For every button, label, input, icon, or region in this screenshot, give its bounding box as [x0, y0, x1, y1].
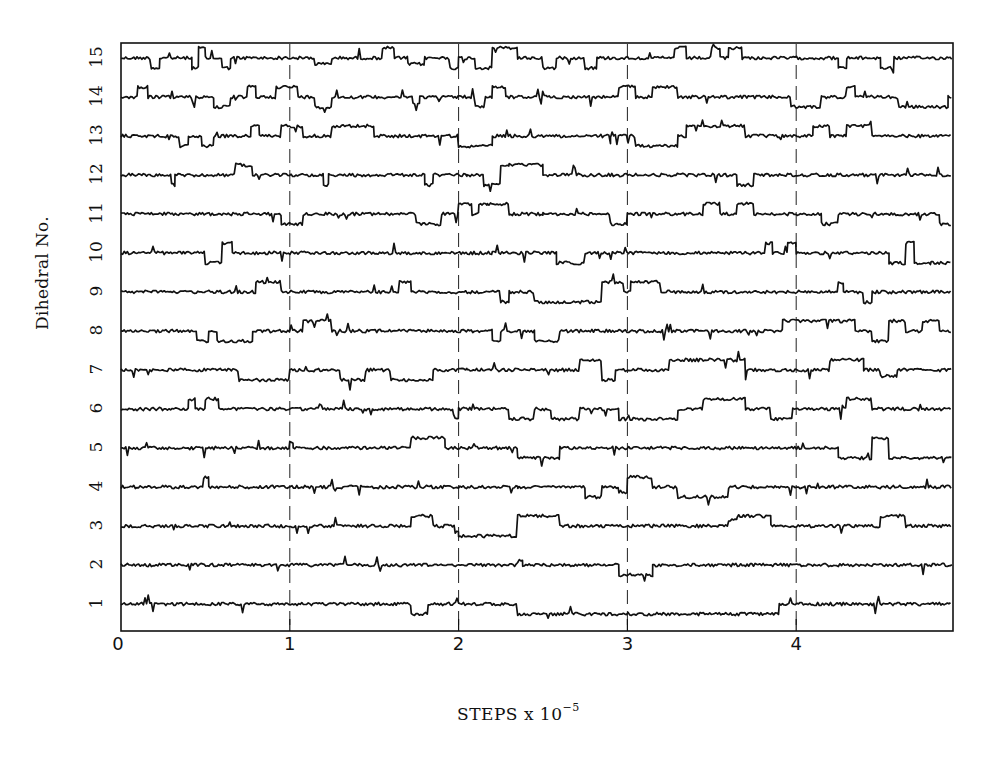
trace-dihedral-15 [121, 44, 952, 72]
trace-dihedral-9 [121, 274, 951, 304]
trace-dihedral-3 [121, 514, 951, 537]
vertical-dashed-lines [290, 44, 796, 630]
trace-dihedral-12 [121, 163, 951, 191]
trace-dihedral-10 [121, 242, 950, 265]
x-tick-label: 2 [449, 633, 469, 654]
trace-dihedral-8 [121, 314, 951, 343]
trace-dihedral-1 [121, 595, 951, 618]
y-tick-label: 2 [86, 549, 106, 579]
y-tick-label: 15 [86, 42, 106, 72]
chart-figure: 123456789101112131415 01234 Dihedral No.… [0, 0, 993, 759]
trace-dihedral-4 [121, 476, 951, 505]
trace-dihedral-5 [121, 436, 951, 466]
x-tick-label: 1 [280, 633, 300, 654]
x-tick-marks [290, 619, 796, 631]
x-tick-label: 3 [617, 633, 637, 654]
y-tick-label: 6 [86, 393, 106, 423]
y-tick-label: 9 [86, 276, 106, 306]
plot-area [0, 0, 993, 759]
trace-dihedral-11 [121, 202, 951, 225]
y-tick-label: 10 [86, 237, 106, 267]
y-tick-label: 1 [86, 588, 106, 618]
y-tick-label: 13 [86, 120, 106, 150]
y-axis-label: Dihedral No. [32, 216, 52, 330]
x-tick-label: 0 [108, 633, 128, 654]
y-tick-label: 11 [86, 198, 106, 228]
trace-dihedral-14 [121, 85, 951, 112]
x-axis-label: STEPS x 10−5 [457, 703, 580, 724]
trace-dihedral-13 [121, 120, 951, 148]
x-axis-label-text: STEPS x 10 [457, 704, 563, 724]
x-axis-label-exponent: −5 [563, 701, 580, 714]
y-tick-label: 7 [86, 354, 106, 384]
plot-frame [121, 43, 953, 631]
x-tick-label: 4 [786, 633, 806, 654]
y-axis-label-text: Dihedral No. [32, 216, 52, 330]
y-tick-label: 14 [86, 81, 106, 111]
y-tick-label: 5 [86, 432, 106, 462]
trace-dihedral-7 [121, 352, 951, 390]
y-tick-label: 12 [86, 159, 106, 189]
y-tick-label: 4 [86, 471, 106, 501]
y-tick-label: 3 [86, 510, 106, 540]
y-tick-label: 8 [86, 315, 106, 345]
trace-dihedral-2 [121, 556, 952, 581]
dihedral-traces [121, 44, 952, 618]
trace-dihedral-6 [121, 397, 951, 420]
